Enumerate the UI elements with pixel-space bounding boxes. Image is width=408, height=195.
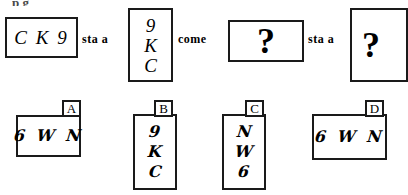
stem-term-4-box: ? bbox=[350, 8, 408, 82]
option-c-line-1: N bbox=[236, 124, 252, 140]
option-b-line-2: K bbox=[147, 144, 163, 160]
option-c-line-3: 6 bbox=[238, 164, 251, 180]
option-d-label-tab[interactable]: D bbox=[365, 100, 384, 117]
stem-term-4-question-mark: ? bbox=[362, 27, 380, 63]
option-c-label-tab[interactable]: C bbox=[245, 100, 264, 117]
option-c-line-2: W bbox=[234, 144, 254, 160]
stem-term-1-box: C K 9 bbox=[5, 17, 78, 58]
option-b-box[interactable]: 9 K C bbox=[133, 114, 177, 190]
stem-connector-1: sta a bbox=[82, 33, 108, 45]
option-a-label-tab[interactable]: A bbox=[62, 100, 81, 117]
stem-term-3-question-mark: ? bbox=[257, 23, 275, 59]
stem-term-2-line-3: C bbox=[144, 56, 157, 75]
option-c-box[interactable]: N W 6 bbox=[222, 114, 266, 190]
option-b-letter: B bbox=[159, 102, 168, 115]
option-d-text: 6 W N bbox=[314, 129, 386, 145]
option-a-box[interactable]: 6 W N bbox=[16, 115, 81, 157]
stem-term-2-box: 9 K C bbox=[128, 8, 173, 82]
option-a-letter: A bbox=[67, 102, 76, 115]
option-b-line-3: C bbox=[148, 164, 162, 180]
option-a-text: 6 W N bbox=[13, 128, 85, 144]
stem-connector-2: come bbox=[178, 33, 207, 45]
stem-term-2-line-2: K bbox=[144, 36, 157, 55]
option-d-box[interactable]: 6 W N bbox=[312, 114, 387, 160]
cropped-text-above: p g bbox=[12, 0, 232, 6]
option-c-letter: C bbox=[250, 102, 259, 115]
stem-connector-3: sta a bbox=[308, 33, 334, 45]
option-b-label-tab[interactable]: B bbox=[154, 100, 173, 117]
stem-term-2-line-1: 9 bbox=[146, 16, 156, 35]
stem-term-1-text: C K 9 bbox=[14, 28, 68, 47]
option-b-line-1: 9 bbox=[149, 124, 162, 140]
option-d-letter: D bbox=[370, 102, 379, 115]
stem-term-3-box: ? bbox=[228, 20, 304, 62]
